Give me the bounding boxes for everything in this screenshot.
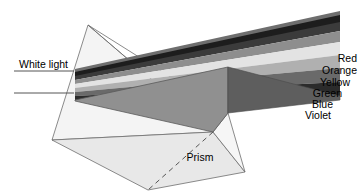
spectrum-label-violet: Violet [305,109,331,121]
prism-base-face [52,132,245,190]
spectrum-label-red: Red [338,52,357,64]
prism-label: Prism [187,151,214,163]
spectrum-label-orange: Orange [322,64,357,76]
prism-diagram-canvas: White light Prism Red Orange Yellow Gree… [0,0,359,192]
prism-dispersion-figure: White light Prism Red Orange Yellow Gree… [0,0,359,192]
white-light-label: White light [19,58,68,70]
incoming-white-light-rays [14,71,74,93]
